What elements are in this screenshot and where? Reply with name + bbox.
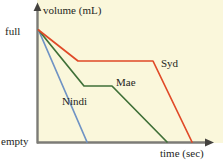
volume-vs-time-chart: volume (mL) time (sec) full empty Nindi …	[0, 0, 223, 164]
y-tick-label-empty: empty	[1, 135, 29, 147]
series-label-mae: Mae	[116, 76, 136, 88]
y-tick-label-full: full	[5, 25, 20, 37]
y-axis-title: volume (mL)	[43, 4, 101, 16]
series-label-nindi: Nindi	[62, 95, 87, 107]
chart-svg	[0, 0, 223, 164]
y-axis-arrowhead	[34, 3, 42, 12]
x-axis-arrowhead	[205, 138, 214, 146]
series-line-mae	[39, 30, 168, 142]
series-line-nindi	[39, 30, 88, 142]
series-label-syd: Syd	[161, 57, 178, 69]
x-axis-title: time (sec)	[160, 147, 204, 159]
